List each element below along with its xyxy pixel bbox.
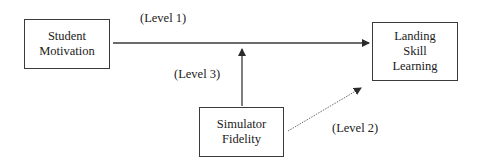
node-student-motivation: Student Motivation: [24, 19, 110, 69]
node-label-line: Student: [48, 29, 86, 44]
node-landing-skill-learning: Landing Skill Learning: [372, 22, 458, 81]
diagram-canvas: Student Motivation Landing Skill Learnin…: [0, 0, 477, 167]
edge-label-level-3: (Level 3): [174, 67, 220, 82]
node-label-line: Simulator: [217, 117, 266, 132]
node-label-line: Learning: [392, 59, 437, 74]
node-label-line: Fidelity: [222, 132, 261, 147]
node-label-line: Motivation: [39, 44, 95, 59]
edge-label-level-2: (Level 2): [332, 121, 378, 136]
node-label-line: Landing: [394, 29, 436, 44]
node-label-line: Skill: [403, 44, 427, 59]
edge-label-level-1: (Level 1): [140, 11, 186, 26]
node-simulator-fidelity: Simulator Fidelity: [199, 107, 284, 157]
